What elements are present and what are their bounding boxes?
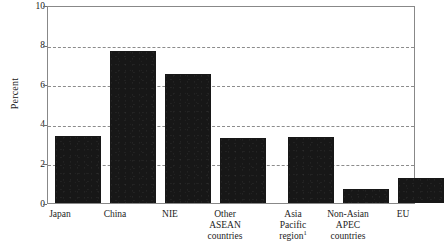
bar-nie [165,74,211,203]
bar-eu [398,178,444,203]
y-tick-label-8: 8 [19,41,45,51]
x-label-other-asean-line-1: Other [189,209,261,220]
bar-other-asean [220,138,266,203]
footnote-marker-1: 1 [304,229,307,236]
y-tick-mark-0 [43,204,47,205]
y-axis-title: Percent [9,54,20,134]
x-label-other-asean: Other ASEAN countries [189,209,261,243]
x-label-non-asian-apec-line-2: APEC [312,220,384,231]
y-tick-label-6: 6 [19,81,45,91]
x-label-eu: EU [367,209,439,220]
gridline-6 [48,86,414,87]
bar-non-asian-apec [343,189,389,203]
bar-japan [55,136,101,203]
y-tick-label-4: 4 [19,120,45,130]
y-tick-label-10: 10 [19,2,45,12]
x-label-eu-line-1: EU [367,209,439,220]
gridline-8 [48,47,414,48]
x-label-other-asean-line-3: countries [189,231,261,242]
x-label-non-asian-apec-line-3: countries [312,231,384,242]
bar-china [110,51,156,203]
y-tick-label-0: 0 [19,200,45,210]
y-tick-label-2: 2 [19,160,45,170]
bar-asia-pacific [288,137,334,203]
x-label-other-asean-line-2: ASEAN [189,220,261,231]
gridline-4 [48,126,414,127]
x-label-asia-pacific-line-3-text: region [279,231,303,241]
plot-area [47,6,415,204]
